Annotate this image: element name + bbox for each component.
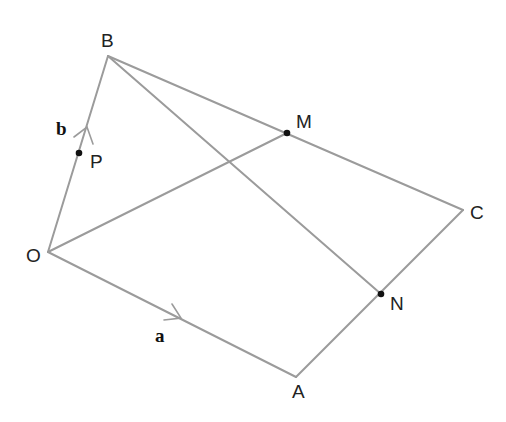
vector-diagram: B O C A M N P b a bbox=[0, 0, 506, 422]
label-N: N bbox=[390, 293, 404, 314]
point-N-marker bbox=[378, 291, 385, 298]
label-A: A bbox=[292, 381, 305, 402]
label-P: P bbox=[90, 151, 103, 172]
label-C: C bbox=[470, 202, 484, 223]
segment-OM bbox=[48, 133, 287, 252]
vector-a-label: a bbox=[155, 325, 165, 346]
segment-AO bbox=[48, 252, 296, 377]
point-P-marker bbox=[76, 150, 83, 157]
label-O: O bbox=[26, 245, 41, 266]
label-M: M bbox=[296, 111, 312, 132]
vector-b-label: b bbox=[56, 118, 67, 139]
point-M-marker bbox=[284, 130, 291, 137]
segment-BN bbox=[108, 56, 381, 294]
label-B: B bbox=[101, 30, 114, 51]
